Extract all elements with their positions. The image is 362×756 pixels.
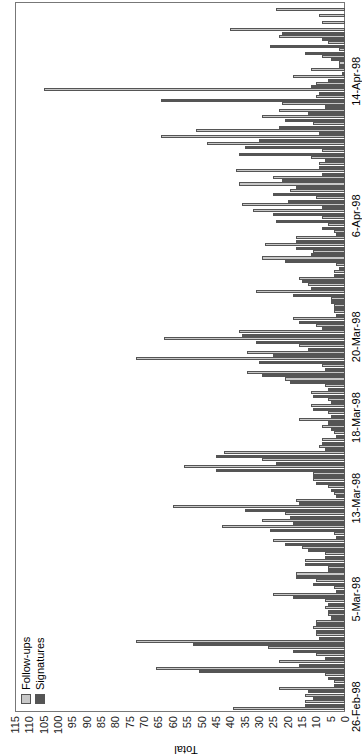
bar (290, 381, 345, 384)
bar (339, 61, 345, 64)
bar (319, 92, 345, 95)
bar (216, 455, 345, 458)
bar (311, 156, 345, 159)
bars (15, 2, 345, 712)
bar (331, 415, 345, 418)
bar (285, 260, 345, 263)
y-tick: 10 (310, 716, 322, 734)
bar (305, 700, 345, 703)
bar (313, 475, 345, 478)
bar (44, 88, 345, 91)
bar (279, 687, 345, 690)
bar (328, 388, 345, 391)
y-tick: 115 (9, 716, 21, 734)
bar (331, 616, 345, 619)
x-tick: 26-Feb-98 (350, 681, 362, 732)
bar (262, 115, 345, 118)
bar (328, 422, 345, 425)
bar (313, 408, 345, 411)
bar (293, 522, 345, 525)
bar (334, 492, 345, 495)
bar (308, 690, 345, 693)
bar (339, 65, 345, 68)
bar (328, 485, 345, 488)
bar (325, 448, 345, 451)
bar (316, 579, 345, 582)
bar (173, 505, 345, 508)
bar (296, 576, 345, 579)
bar (316, 630, 345, 633)
bar (268, 646, 345, 649)
bar (265, 243, 345, 246)
bar (331, 428, 345, 431)
bar (256, 341, 345, 344)
bar (299, 321, 345, 324)
swatch-icon (21, 694, 31, 704)
bar (273, 593, 345, 596)
bar (319, 445, 345, 448)
bar (308, 549, 345, 552)
bar (311, 287, 345, 290)
bar (334, 274, 345, 277)
bar (322, 327, 345, 330)
bar (239, 330, 345, 333)
bar (290, 516, 345, 519)
bar (262, 256, 345, 259)
y-tick: 5 (325, 716, 337, 734)
bar (161, 135, 345, 138)
swatch-icon (35, 694, 45, 704)
bar (316, 623, 345, 626)
y-tick: 20 (282, 716, 294, 734)
y-tick: 25 (267, 716, 279, 734)
bar (331, 300, 345, 303)
bar (308, 348, 345, 351)
bar (322, 216, 345, 219)
bar (199, 670, 345, 673)
bar (293, 317, 345, 320)
bar (282, 102, 345, 105)
bar (334, 230, 345, 233)
bar (316, 653, 345, 656)
x-tick: 13-Mar-98 (350, 473, 362, 524)
bar (161, 99, 345, 102)
bar (325, 105, 345, 108)
bar (322, 206, 345, 209)
bar (207, 142, 345, 145)
bar (239, 153, 345, 156)
bar (319, 637, 345, 640)
bar (328, 610, 345, 613)
bar (273, 354, 345, 357)
bar (273, 539, 345, 542)
bar (242, 203, 345, 206)
bar (328, 41, 345, 44)
bar (305, 559, 345, 562)
bar (322, 55, 345, 58)
bar (279, 109, 345, 112)
bar (325, 159, 345, 162)
bar (288, 200, 345, 203)
bar (285, 378, 345, 381)
y-tick: 100 (52, 716, 64, 734)
bar (247, 371, 345, 374)
bar (325, 556, 345, 559)
x-tick: 5-Mar-98 (350, 577, 362, 622)
y-tick: 105 (38, 716, 50, 734)
bar (285, 543, 345, 546)
bar (296, 499, 345, 502)
bar (336, 314, 345, 317)
bar (334, 310, 345, 313)
y-tick: 40 (224, 716, 236, 734)
bar (331, 489, 345, 492)
bar (299, 344, 345, 347)
bar (334, 304, 345, 307)
bar (334, 586, 345, 589)
bar (313, 250, 345, 253)
bar (270, 45, 345, 48)
x-tick: 18-Mar-98 (350, 392, 362, 443)
bar (216, 469, 345, 472)
bar (319, 162, 345, 165)
y-tick: 95 (66, 716, 78, 734)
bar (316, 620, 345, 623)
y-tick: 50 (196, 716, 208, 734)
bar (193, 643, 345, 646)
